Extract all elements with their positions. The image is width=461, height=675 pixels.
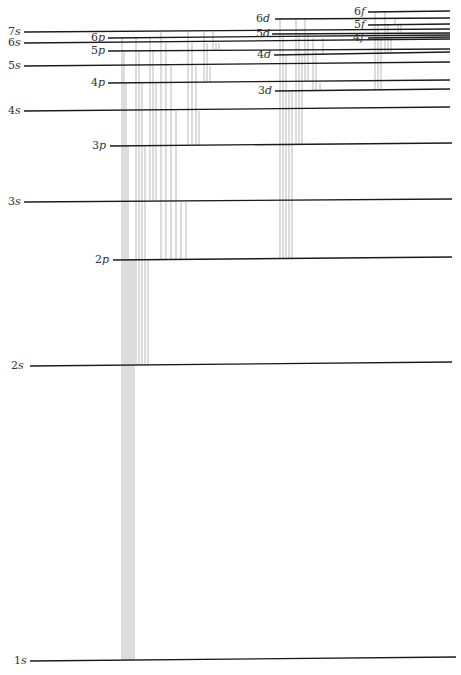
level-line-4f <box>368 37 450 38</box>
level-label-4f: 4f <box>353 31 366 44</box>
level-line-6f <box>368 11 450 12</box>
level-label-6f: 6f <box>354 5 367 18</box>
level-line-5s <box>24 62 450 66</box>
level-label-3d: 3d <box>258 84 272 97</box>
level-label-4s: 4s <box>8 104 21 117</box>
level-label-7s: 7s <box>8 25 21 38</box>
level-line-4d <box>274 52 450 55</box>
energy-level-diagram: 1s2s2p3s3p3d4s4p4d4f5s5p5d5f6s6p6d6f7s <box>0 0 461 675</box>
level-label-1s: 1s <box>14 654 27 667</box>
level-line-3s <box>24 199 452 202</box>
level-label-6p: 6p <box>91 31 105 44</box>
level-label-5p: 5p <box>91 44 105 57</box>
level-label-5d: 5d <box>256 27 270 40</box>
level-label-6d: 6d <box>256 12 270 25</box>
level-label-4d: 4d <box>257 48 271 61</box>
level-line-5f <box>368 24 450 25</box>
level-label-4p: 4p <box>91 76 105 89</box>
level-line-5p <box>108 49 450 51</box>
level-line-4p <box>108 80 450 83</box>
level-label-5f: 5f <box>354 18 367 31</box>
level-label-5s: 5s <box>8 59 21 72</box>
level-labels: 1s2s2p3s3p3d4s4p4d4f5s5p5d5f6s6p6d6f7s <box>8 5 367 667</box>
level-label-2p: 2p <box>95 253 109 266</box>
level-line-6s <box>24 39 450 43</box>
level-line-4s <box>24 107 450 111</box>
level-label-3s: 3s <box>8 195 21 208</box>
level-line-7s <box>24 29 450 32</box>
level-line-3d <box>275 89 450 91</box>
level-label-2s: 2s <box>11 359 24 372</box>
level-label-3p: 3p <box>92 139 106 152</box>
level-line-2p <box>113 257 452 260</box>
level-line-2s <box>30 362 452 366</box>
energy-levels <box>24 11 456 661</box>
level-line-1s <box>30 657 456 661</box>
